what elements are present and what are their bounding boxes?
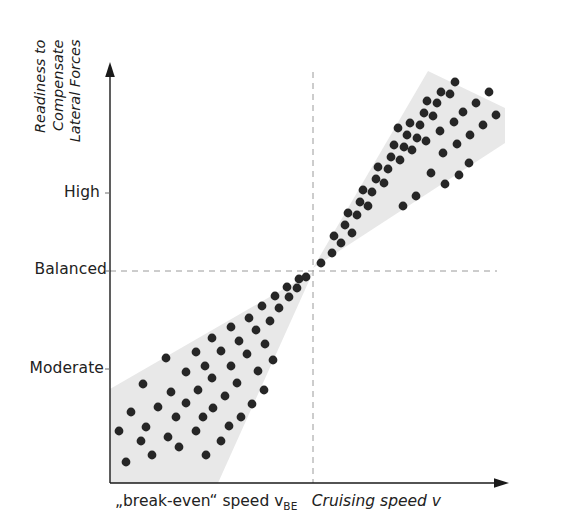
data-point [285, 293, 294, 302]
data-point [258, 302, 267, 311]
data-point [202, 451, 211, 460]
data-point [248, 400, 257, 409]
data-point [317, 259, 326, 268]
data-point [374, 163, 383, 172]
data-point [466, 131, 475, 140]
data-point [192, 348, 201, 357]
data-point [209, 404, 218, 413]
data-point [423, 97, 432, 106]
data-point [221, 392, 230, 401]
plot-area [0, 0, 581, 530]
data-point [164, 433, 173, 442]
data-point [254, 367, 263, 376]
data-point [148, 451, 157, 460]
data-point [451, 78, 460, 87]
data-point [359, 186, 368, 195]
data-point [139, 380, 148, 389]
data-point [408, 146, 417, 155]
data-point [353, 211, 362, 220]
data-point [217, 347, 226, 356]
data-point [235, 337, 244, 346]
data-point [412, 192, 421, 201]
data-point [237, 413, 246, 422]
data-point [348, 229, 357, 238]
data-point [275, 304, 284, 313]
data-point [227, 362, 236, 371]
data-point [429, 112, 438, 121]
data-point [341, 221, 350, 230]
data-point [260, 386, 269, 395]
data-point [233, 379, 242, 388]
data-point [208, 334, 217, 343]
data-point [328, 249, 337, 258]
data-point [227, 323, 236, 332]
data-point [439, 149, 448, 158]
data-point [217, 437, 226, 446]
data-point [364, 202, 373, 211]
data-point [356, 198, 365, 207]
data-point [122, 458, 131, 467]
data-point [396, 156, 405, 165]
data-point [433, 99, 442, 108]
data-point [416, 121, 425, 130]
data-point [192, 427, 201, 436]
data-point [492, 111, 501, 120]
data-point [420, 109, 429, 118]
data-point [406, 119, 415, 128]
data-point [162, 354, 171, 363]
data-point [399, 202, 408, 211]
data-point [182, 368, 191, 377]
data-point [337, 239, 346, 248]
data-point [243, 350, 252, 359]
data-point [387, 153, 396, 162]
data-point [459, 108, 468, 117]
y-axis-arrowhead-icon [105, 62, 115, 77]
data-point [154, 403, 163, 412]
data-point [208, 374, 217, 383]
data-point [427, 169, 436, 178]
chart-figure: Readiness to Compensate Lateral Forces H… [0, 0, 581, 530]
data-point [441, 180, 450, 189]
data-point [261, 340, 270, 349]
data-point [479, 121, 488, 130]
data-point [167, 388, 176, 397]
data-point [485, 88, 494, 97]
data-point [384, 165, 393, 174]
data-point [271, 292, 280, 301]
data-point [437, 88, 446, 97]
data-point [446, 90, 455, 99]
data-point [182, 399, 191, 408]
data-point [330, 232, 339, 241]
data-point [172, 413, 181, 422]
data-point [302, 273, 311, 282]
data-point [283, 283, 292, 292]
data-point [453, 140, 462, 149]
data-point [142, 423, 151, 432]
data-point [194, 386, 203, 395]
data-point [266, 317, 275, 326]
data-point [252, 326, 261, 335]
data-point [400, 143, 409, 152]
data-point [403, 131, 412, 140]
data-point [413, 134, 422, 143]
data-point [137, 437, 146, 446]
data-point [450, 118, 459, 127]
data-point [115, 427, 124, 436]
data-point [465, 159, 474, 168]
data-point [372, 175, 381, 184]
data-point [344, 209, 353, 218]
data-point [201, 362, 210, 371]
data-point [422, 137, 431, 146]
data-point [472, 99, 481, 108]
data-point [127, 408, 136, 417]
data-point [380, 179, 389, 188]
data-point [368, 188, 377, 197]
data-point [394, 124, 403, 133]
data-point [390, 141, 399, 150]
data-point [225, 422, 234, 431]
data-point [293, 284, 302, 293]
data-point [199, 413, 208, 422]
data-point [245, 314, 254, 323]
data-point [455, 171, 464, 180]
data-point [436, 127, 445, 136]
